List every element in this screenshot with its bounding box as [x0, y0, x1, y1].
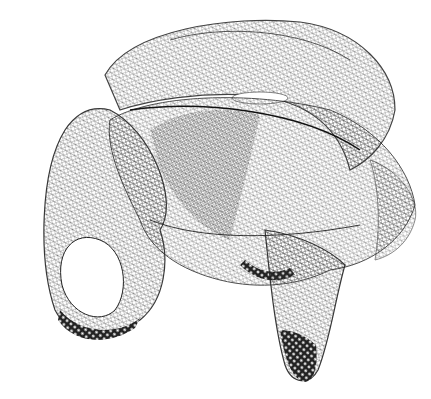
wireframe-render: [0, 0, 431, 399]
mesh-drawing: [0, 0, 431, 399]
